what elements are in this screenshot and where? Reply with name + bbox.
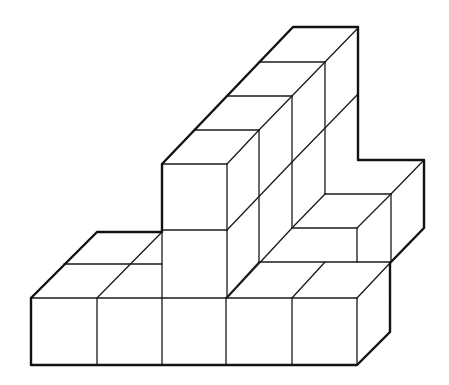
cube-structure-drawing	[0, 0, 449, 385]
